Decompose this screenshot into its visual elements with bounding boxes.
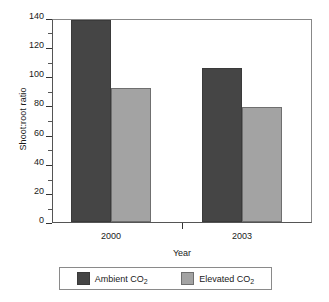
x-tick-label-2003: 2003 [207, 231, 277, 241]
legend-item-elevated[interactable]: Elevated CO2 [181, 272, 254, 285]
legend-label-elevated-text: Elevated CO [199, 274, 250, 284]
y-axis-title: Shoot:root ratio [18, 49, 28, 189]
chart-legend: Ambient CO2 Elevated CO2 [59, 267, 272, 290]
y-tick-label-20: 20 [8, 191, 44, 192]
legend-label-elevated-sub: 2 [250, 278, 254, 285]
bar-2003-elevated[interactable] [242, 107, 282, 222]
x-tick-label-2000: 2000 [76, 231, 146, 241]
legend-item-ambient[interactable]: Ambient CO2 [77, 272, 148, 285]
legend-swatch-ambient-icon [77, 272, 90, 285]
y-tick-label-80: 80 [8, 103, 44, 104]
bar-2003-ambient[interactable] [202, 68, 242, 222]
legend-label-ambient: Ambient CO2 [95, 274, 148, 284]
legend-label-elevated: Elevated CO2 [199, 274, 254, 284]
y-tick-major-0 [46, 223, 52, 224]
y-tick-label-100: 100 [8, 74, 44, 75]
bar-2000-ambient[interactable] [71, 20, 111, 222]
plot-area [52, 19, 312, 223]
x-axis-title: Year [52, 248, 312, 258]
bar-2000-elevated[interactable] [111, 88, 151, 222]
y-tick-label-140: 140 [8, 16, 44, 17]
x-tick-center [182, 223, 183, 229]
y-tick-label-60: 60 [8, 133, 44, 134]
legend-label-ambient-text: Ambient CO [95, 274, 144, 284]
legend-swatch-elevated-icon [181, 272, 194, 285]
y-tick-label-0: 0 [8, 220, 44, 221]
legend-label-ambient-sub: 2 [144, 278, 148, 285]
y-tick-label-40: 40 [8, 162, 44, 163]
y-tick-label-120: 120 [8, 45, 44, 46]
bar-chart-figure: Shoot:root ratio 140 120 100 80 60 40 20… [0, 0, 329, 302]
